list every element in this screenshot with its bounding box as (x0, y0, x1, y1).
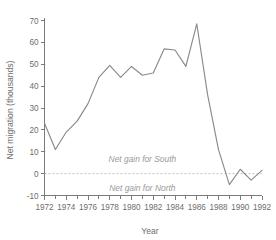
chart-annotation-label: Net gain for South (109, 154, 177, 164)
x-tick-label: 1986 (188, 203, 207, 212)
x-tick-label: 1974 (57, 203, 76, 212)
x-tick-label: 1980 (122, 203, 141, 212)
x-tick-label: 1990 (231, 203, 250, 212)
x-tick-label: 1972 (35, 203, 54, 212)
x-tick-label: 1978 (101, 203, 120, 212)
chart-figure: Net migration (thousands) Year -10010203… (0, 0, 276, 240)
x-axis-title: Year (141, 226, 159, 236)
x-tick-label: 1976 (79, 203, 98, 212)
x-tick-label: 1984 (166, 203, 185, 212)
line-chart: Net migration (thousands) Year -10010203… (0, 0, 276, 240)
y-tick-label: 40 (29, 82, 39, 91)
x-tick-label: 1988 (209, 203, 228, 212)
y-tick-label: 50 (29, 60, 39, 69)
y-tick-label: 20 (29, 126, 39, 135)
x-tick-label: 1982 (144, 203, 163, 212)
y-tick-label: 0 (34, 170, 39, 179)
y-tick-label: 30 (29, 104, 39, 113)
y-axis-title: Net migration (thousands) (5, 60, 15, 159)
x-tick-label: 1992 (253, 203, 272, 212)
y-axis-title-group: Net migration (thousands) (5, 60, 15, 159)
y-tick-label: 10 (29, 148, 39, 157)
y-axis-ticks: -10010203040506070 (27, 17, 45, 201)
y-tick-label: -10 (27, 192, 39, 201)
x-axis-ticks: 1972197419761978198019821984198619881990… (35, 196, 271, 212)
y-tick-label: 70 (29, 17, 39, 26)
chart-annotation-label: Net gain for North (109, 183, 175, 193)
y-tick-label: 60 (29, 38, 39, 47)
